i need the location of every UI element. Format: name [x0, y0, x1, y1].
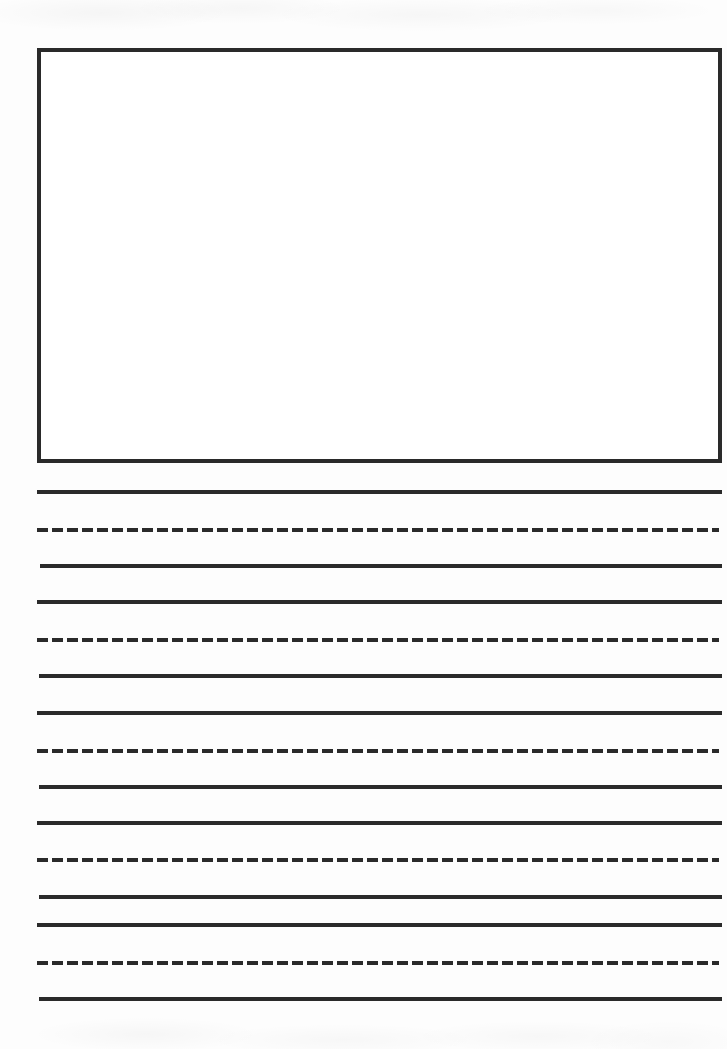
writing-rule-dashed-5[interactable]: [37, 638, 719, 642]
worksheet-page: [0, 0, 727, 1049]
writing-rule-solid-10[interactable]: [37, 821, 722, 825]
writing-rule-dashed-14[interactable]: [37, 961, 719, 965]
writing-rule-solid-15[interactable]: [39, 997, 722, 1001]
writing-rule-solid-6[interactable]: [39, 674, 722, 678]
writing-rule-dashed-2[interactable]: [37, 528, 719, 532]
writing-rule-solid-4[interactable]: [37, 600, 722, 604]
writing-rule-solid-13[interactable]: [37, 923, 722, 927]
writing-rule-dashed-11[interactable]: [37, 858, 719, 862]
writing-rule-solid-12[interactable]: [39, 895, 722, 899]
writing-rule-solid-9[interactable]: [39, 785, 722, 789]
writing-rule-solid-1[interactable]: [37, 490, 722, 494]
writing-rule-solid-3[interactable]: [40, 564, 722, 568]
writing-rule-solid-7[interactable]: [37, 711, 722, 715]
drawing-box[interactable]: [37, 48, 722, 463]
writing-rule-dashed-8[interactable]: [37, 749, 719, 753]
